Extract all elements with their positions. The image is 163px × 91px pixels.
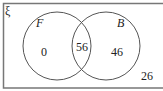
region-b-only-value: 46 — [111, 45, 123, 59]
set-f-label: F — [35, 16, 44, 30]
region-f-only-value: 0 — [41, 45, 47, 59]
region-intersection-value: 56 — [76, 40, 88, 54]
universal-set-symbol: ξ — [5, 4, 11, 18]
set-b-label: B — [117, 16, 125, 30]
venn-diagram: ξ F B 0 56 46 26 — [0, 0, 163, 91]
region-outside-value: 26 — [141, 69, 153, 83]
